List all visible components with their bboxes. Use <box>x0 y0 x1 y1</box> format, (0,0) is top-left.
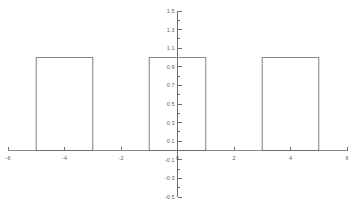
x-tick-label: -4 <box>62 155 67 161</box>
x-tick-label: 6 <box>345 155 348 161</box>
y-tick-label: 1.5 <box>167 8 175 14</box>
y-tick-label: 0.1 <box>167 138 175 144</box>
x-tick-label: 2 <box>232 155 235 161</box>
y-tick-label: -0.3 <box>165 175 175 181</box>
y-tick-label: 1.3 <box>167 27 175 33</box>
y-tick-label: 0.5 <box>167 101 175 107</box>
y-tick-label: 1.1 <box>167 45 175 51</box>
square-wave-plot: -6-4-20246-0.5-0.3-0.10.10.30.50.70.91.1… <box>0 0 356 207</box>
y-tick-label: -0.5 <box>165 194 175 200</box>
x-tick-label: -6 <box>6 155 11 161</box>
x-tick-label: -2 <box>119 155 124 161</box>
chart-container: -6-4-20246-0.5-0.3-0.10.10.30.50.70.91.1… <box>0 0 356 207</box>
y-tick-label: 0.9 <box>167 64 175 70</box>
x-tick-label: 4 <box>289 155 292 161</box>
y-tick-label: 0.7 <box>167 82 175 88</box>
y-tick-label: -0.1 <box>165 157 175 163</box>
y-tick-label: 0.3 <box>167 120 175 126</box>
